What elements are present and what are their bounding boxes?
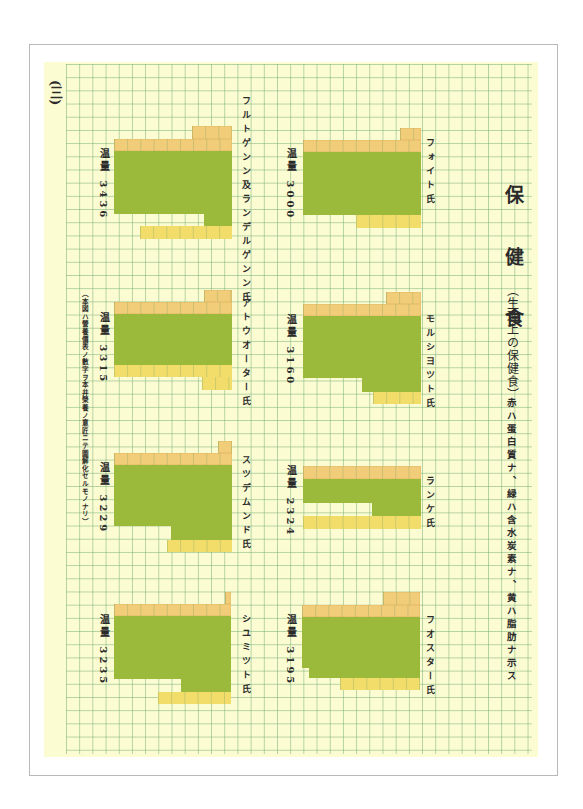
protein-bar — [386, 292, 421, 304]
chart-name: シユミツト氏 — [240, 614, 253, 698]
chart-name: アトウオーター氏 — [240, 298, 253, 410]
calorie-label: 温量 3229 — [96, 462, 111, 534]
page-subtitle: （生理上の保健食） — [503, 284, 520, 401]
protein-bar — [303, 466, 421, 479]
carbohydrate-bar — [303, 479, 421, 503]
protein-bar — [218, 441, 232, 453]
protein-bar — [114, 302, 232, 314]
protein-bar — [225, 592, 231, 604]
protein-bar — [204, 290, 232, 302]
calorie-label: 温量 3160 — [283, 314, 298, 386]
fat-bar — [140, 226, 232, 239]
carbohydrate-bar — [204, 214, 232, 226]
protein-bar — [303, 140, 421, 152]
chart-name: フォイト氏 — [424, 138, 437, 208]
calorie-label: 温量 3235 — [96, 614, 111, 686]
calorie-label: 温量 3315 — [96, 312, 111, 384]
calorie-label: 温量 3195 — [283, 614, 298, 686]
fat-bar — [303, 516, 421, 529]
carbohydrate-bar — [114, 616, 231, 679]
carbohydrate-bar — [309, 668, 420, 678]
fat-bar — [202, 377, 232, 390]
carbohydrate-bar — [303, 316, 421, 378]
chart-name: ランケ氏 — [424, 476, 437, 532]
chart-name: フルトゲンン及ランデルゲンン氏 — [240, 96, 253, 306]
calorie-label: 温量 2324 — [283, 465, 298, 537]
protein-bar — [383, 592, 420, 605]
fat-bar — [158, 692, 231, 704]
fat-bar — [356, 215, 421, 228]
footnote: （本図ハ營養價表ノ數字ヲ本井榮養ノ意匠ニテ圖解化セルモノナリ） — [79, 290, 89, 526]
fat-bar — [114, 365, 232, 377]
protein-bar — [303, 304, 421, 316]
color-legend-text: 赤ハ蛋白質ナ、緑ハ含水炭素ナ、黄ハ脂肪ナ示ス — [504, 398, 518, 684]
carbohydrate-bar — [181, 679, 231, 692]
protein-bar — [114, 453, 232, 465]
carbohydrate-bar — [171, 526, 232, 540]
calorie-label: 温量 3000 — [283, 148, 298, 220]
carbohydrate-bar — [114, 465, 232, 526]
carbohydrate-bar — [372, 503, 421, 516]
carbohydrate-bar — [302, 617, 420, 668]
carbohydrate-bar — [114, 314, 232, 365]
fat-bar — [340, 678, 420, 690]
chart-name: フオスター氏 — [424, 615, 437, 699]
protein-bar — [302, 605, 420, 617]
fat-bar — [167, 540, 232, 552]
fat-bar — [373, 392, 421, 404]
carbohydrate-bar — [114, 151, 232, 214]
chart-name: モルシヨツト氏 — [424, 314, 437, 412]
page-number: (三) — [46, 80, 65, 105]
chart-name: スツデムンド氏 — [240, 455, 253, 553]
carbohydrate-bar — [303, 152, 421, 215]
protein-bar — [114, 139, 232, 151]
protein-bar — [192, 126, 232, 139]
protein-bar — [114, 604, 231, 616]
carbohydrate-bar — [362, 378, 421, 392]
calorie-label: 温量 3436 — [96, 148, 111, 220]
protein-bar — [400, 128, 421, 140]
